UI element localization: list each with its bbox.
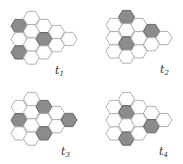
- hex-cell-filled: [119, 10, 135, 23]
- hex-cell-filled: [61, 113, 77, 126]
- panel-label-t2: t2: [160, 63, 169, 77]
- panel-label-t3: t3: [61, 145, 70, 159]
- hex-cell-empty: [119, 92, 135, 105]
- hex-cell-empty: [61, 32, 77, 45]
- hex-cell-empty: [156, 31, 172, 44]
- hex-cell-empty: [24, 11, 40, 24]
- panel-label-t4: t4: [159, 145, 168, 159]
- panel-t4: [106, 92, 172, 145]
- panel-t1: [11, 11, 77, 64]
- hex-grid-figure: t1 t2 t3 t4: [0, 0, 183, 164]
- hex-cell-empty: [156, 113, 172, 126]
- panel-t3: [11, 92, 77, 145]
- hex-cell-empty: [24, 92, 40, 105]
- panel-t2: [106, 10, 172, 63]
- panel-label-t1: t1: [55, 64, 64, 78]
